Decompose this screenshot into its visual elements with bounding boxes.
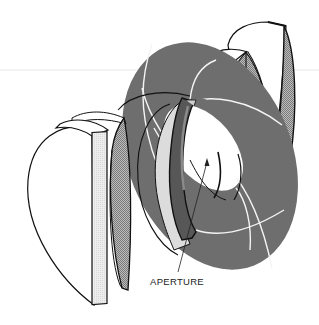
front-lens-outer [28, 120, 108, 305]
aperture-label: APERTURE [150, 276, 204, 287]
